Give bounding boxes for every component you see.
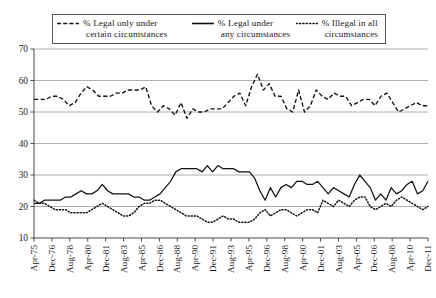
x-tick-label: Apr-80 [83,245,93,272]
y-tick-label: 10 [19,233,29,243]
x-tick-label: Aug-88 [172,245,182,273]
series-line-1 [34,166,428,204]
x-tick-label: Aug-98 [280,245,290,273]
x-axis-ticks [34,238,428,242]
legend-label-line2: circumstances [322,29,378,40]
y-tick-label: 70 [19,44,29,54]
x-tick-label: Apr-05 [352,245,362,272]
legend-label-line2: certain circumstances [83,29,167,40]
x-tick-label: Dec-81 [101,245,111,272]
dashed-line-swatch [57,18,79,29]
legend-label-illegal-all: % Illegal in all circumstances [322,18,378,40]
series-line-2 [34,197,428,222]
y-tick-label: 40 [19,139,29,149]
y-tick-label: 20 [19,202,29,212]
legend-item-legal-any: % Legal under any circumstances [192,18,296,40]
y-tick-label: 30 [19,170,29,180]
y-tick-label: 60 [19,76,29,86]
x-tick-label: Apr-10 [405,245,415,272]
x-tick-label: Apr-90 [190,245,200,272]
x-tick-label: Apr-75 [29,245,39,272]
chart-legend: % Legal only under certain circumstances… [52,14,386,44]
x-axis-labels: Apr-75Dec-76Aug-78Apr-80Dec-81Aug-83Apr-… [29,245,433,273]
dotted-line-swatch [296,18,318,29]
y-axis-labels: 10203040506070 [19,44,29,243]
plot-area: 10203040506070 Apr-75Dec-76Aug-78Apr-80D… [0,44,436,298]
legend-label-line1: % Legal only under [83,18,158,28]
chart-root: % Legal only under certain circumstances… [0,0,436,298]
x-tick-label: Dec-91 [208,245,218,272]
legend-item-illegal-all: % Illegal in all circumstances [296,18,381,40]
legend-label-line1: % Legal under [218,18,273,28]
line-chart-svg: 10203040506070 Apr-75Dec-76Aug-78Apr-80D… [0,44,436,298]
x-tick-label: Aug-78 [65,245,75,273]
x-tick-label: Aug-93 [226,245,236,273]
x-tick-label: Dec-76 [47,245,57,272]
x-tick-label: Dec-01 [316,245,326,272]
gridlines [34,49,428,207]
data-series-group [34,74,428,222]
x-tick-label: Dec-06 [369,245,379,272]
x-tick-label: Apr-85 [137,245,147,272]
x-tick-label: Aug-83 [119,245,129,273]
y-tick-label: 50 [19,107,29,117]
legend-label-line1: % Illegal in all [322,18,378,28]
x-tick-label: Apr-00 [298,245,308,272]
x-tick-label: Aug-08 [387,245,397,273]
legend-item-legal-only-certain: % Legal only under certain circumstances [57,18,192,40]
solid-line-swatch [192,18,214,29]
legend-label-legal-only-certain: % Legal only under certain circumstances [83,18,167,40]
x-tick-label: Dec-11 [423,245,433,272]
x-tick-label: Apr-95 [244,245,254,272]
legend-label-legal-any: % Legal under any circumstances [218,18,290,40]
x-tick-label: Aug-03 [334,245,344,273]
y-axis-ticks [31,49,35,238]
legend-label-line2: any circumstances [218,29,290,40]
x-tick-label: Dec-96 [262,245,272,272]
x-tick-label: Dec-86 [155,245,165,272]
